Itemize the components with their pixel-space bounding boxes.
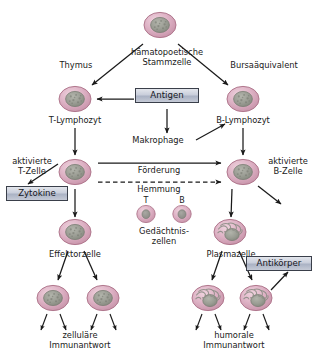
cell-memory-t-cell [137, 205, 155, 222]
label-activated-t-cell: aktivierte T-Zelle [5, 157, 59, 176]
antigen-box[interactable]: Antigen [135, 88, 199, 103]
label-effector-cell: Effektorzelle [32, 250, 118, 260]
immunology-diagram-canvas: hämatopoetische Stammzelle Thymus Bursaä… [0, 0, 317, 359]
arrow-macrophage-to-b-lymphocyte [196, 124, 225, 140]
cell-activated-t-cell [59, 159, 91, 184]
cell-effector-cell [59, 219, 91, 244]
label-memory-b: B [172, 196, 192, 206]
label-bursa: Bursaäquivalent [214, 61, 314, 71]
arrow-activated-b-to-memory [258, 186, 281, 204]
arrow-cellular-3 [91, 314, 97, 330]
cell-effector-daughter-right [87, 285, 119, 310]
arrow-humoral-3 [244, 314, 250, 330]
arrow-plasma-to-antibodies [271, 272, 288, 290]
cell-effector-daughter-left [37, 285, 69, 310]
label-memory-cells: Gedächtnis- zellen [126, 227, 202, 246]
label-stem-cell: hämatopoetische Stammzelle [120, 48, 214, 67]
cell-activated-b-cell [227, 159, 259, 184]
arrow-humoral-2 [215, 314, 221, 330]
label-humoral-response: humorale Immunantwort [186, 331, 282, 350]
label-cellular-response: zelluläre Immunantwort [32, 331, 128, 350]
cell-b-lymphocyte [227, 86, 259, 111]
cell-stem-cell [144, 12, 176, 37]
arrow-humoral-4 [263, 314, 269, 330]
arrow-cellular-4 [110, 314, 116, 330]
label-inhibition: Hemmung [122, 185, 196, 195]
cell-t-lymphocyte [59, 86, 91, 111]
arrow-activated-b-to-plasma [231, 189, 232, 217]
label-t-lymphocyte: T-Lymphozyt [31, 116, 119, 126]
label-activated-b-cell: aktivierte B-Zelle [261, 157, 315, 176]
cytokines-box[interactable]: Zytokine [6, 186, 68, 201]
cell-plasma-daughter-left [192, 285, 224, 310]
label-promotion: Förderung [122, 166, 196, 176]
label-memory-t: T [136, 196, 156, 206]
label-thymus: Thymus [50, 61, 102, 71]
cell-memory-b-cell [173, 205, 191, 222]
cell-plasma-daughter-right [240, 285, 272, 310]
arrow-cellular-2 [60, 314, 66, 330]
cell-plasma-cell [214, 219, 246, 244]
arrow-humoral-1 [196, 314, 202, 330]
label-b-lymphocyte: B-Lymphozyt [199, 116, 287, 126]
antibodies-box[interactable]: Antikörper [246, 256, 312, 271]
label-macrophage: Makrophage [122, 136, 194, 146]
arrow-cellular-1 [41, 314, 47, 330]
